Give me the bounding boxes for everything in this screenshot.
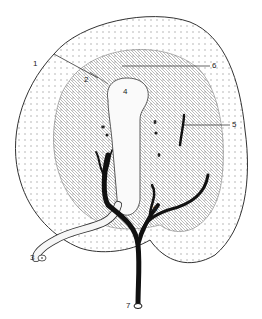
label-5: 5 (232, 121, 236, 129)
label-1: 1 (33, 60, 37, 68)
label-2: 2 (84, 76, 88, 84)
label-4: 4 (123, 88, 127, 96)
label-6: 6 (212, 62, 216, 70)
label-8: 8 (153, 205, 157, 213)
label-7: 7 (126, 302, 130, 310)
kidney-diagram (0, 0, 262, 319)
label-3: 3 (30, 254, 34, 262)
